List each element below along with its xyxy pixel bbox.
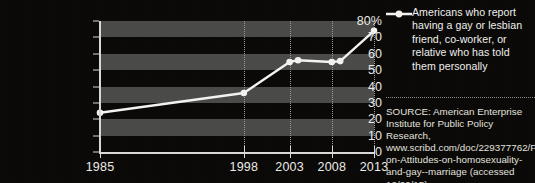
- y-tick-label-60: 60: [290, 47, 382, 61]
- y-tick-mark-40: [93, 86, 99, 87]
- source-divider: [386, 97, 535, 98]
- y-tick-label-30: 30: [290, 96, 382, 110]
- y-tick-mark-0: [93, 152, 99, 153]
- y-axis-line: [99, 21, 101, 152]
- y-tick-label-50: 50: [290, 63, 382, 77]
- y-tick-mark-30: [93, 102, 99, 103]
- x-tick-label-1998: 1998: [230, 160, 259, 174]
- x-tick-mark-1998: [244, 146, 245, 158]
- y-tick-mark-80: [93, 21, 99, 22]
- y-tick-mark-60: [93, 53, 99, 54]
- legend-label: Americans who report having a gay or les…: [412, 6, 535, 73]
- line-circle-marker-icon: [386, 7, 412, 21]
- x-tick-label-2008: 2008: [317, 160, 346, 174]
- x-tick-mark-1985: [100, 146, 101, 158]
- chart-figure: 80%706050403020100 19851998200320082013 …: [0, 0, 535, 183]
- y-tick-label-10: 10: [290, 129, 382, 143]
- source-citation: SOURCE: American Enterprise Institute fo…: [386, 106, 535, 183]
- y-tick-mark-20: [93, 119, 99, 120]
- x-tick-label-2003: 2003: [275, 160, 304, 174]
- y-tick-mark-10: [93, 135, 99, 136]
- x-tick-mark-2013: [374, 146, 375, 158]
- legend-and-source-panel: Americans who report having a gay or les…: [386, 0, 535, 183]
- line-chart: 80%706050403020100 19851998200320082013: [0, 0, 382, 183]
- x-tick-mark-2008: [332, 146, 333, 158]
- x-tick-mark-2003: [290, 146, 291, 158]
- y-tick-label-80: 80%: [290, 14, 382, 28]
- data-point-1998: [241, 90, 248, 97]
- y-tick-label-0: 0: [290, 145, 382, 159]
- y-tick-mark-70: [93, 37, 99, 38]
- x-tick-label-1985: 1985: [86, 160, 115, 174]
- x-tick-label-2013: 2013: [360, 160, 389, 174]
- y-tick-label-20: 20: [290, 112, 382, 126]
- y-tick-label-70: 70: [290, 30, 382, 44]
- y-tick-mark-50: [93, 70, 99, 71]
- y-tick-label-40: 40: [290, 80, 382, 94]
- chart-legend: Americans who report having a gay or les…: [386, 6, 535, 73]
